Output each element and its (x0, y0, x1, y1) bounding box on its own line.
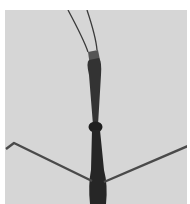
stick-insect-photo (5, 10, 187, 204)
stick-insect-illustration (5, 10, 187, 204)
right-leg (104, 146, 187, 182)
abdomen (89, 130, 106, 204)
left-antenna (68, 10, 88, 52)
left-leg (6, 143, 92, 181)
thorax (88, 58, 102, 125)
right-antenna (87, 10, 97, 50)
